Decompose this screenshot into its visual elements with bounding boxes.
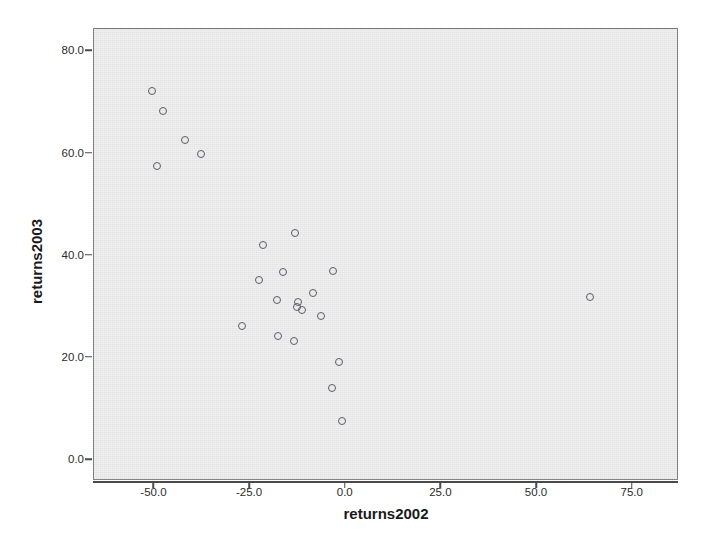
scatter-point xyxy=(328,384,336,392)
scatter-point xyxy=(148,87,156,95)
scatter-point xyxy=(181,136,189,144)
y-tick-label-column: 0.020.040.060.080.0 xyxy=(40,0,84,547)
scatter-point xyxy=(329,267,337,275)
x-tick-mark xyxy=(344,481,346,488)
scatter-point xyxy=(153,162,161,170)
y-tick-label: 40.0 xyxy=(62,249,84,261)
scatter-point xyxy=(197,150,205,158)
x-tick-mark xyxy=(153,481,155,488)
scatter-point xyxy=(159,107,167,115)
scatter-point xyxy=(317,312,325,320)
scatter-point xyxy=(274,332,282,340)
plot-area xyxy=(93,28,678,480)
x-tick-mark xyxy=(631,481,633,488)
scatter-point xyxy=(273,296,281,304)
y-tick-mark xyxy=(85,50,92,52)
y-tick-label: 60.0 xyxy=(62,147,84,159)
y-tick-mark xyxy=(85,152,92,154)
y-tick-mark xyxy=(85,356,92,358)
scatter-point xyxy=(238,322,246,330)
scatter-point xyxy=(298,306,306,314)
x-axis-line xyxy=(93,481,678,483)
x-axis-title: returns2002 xyxy=(93,505,679,522)
scatter-point xyxy=(309,289,317,297)
y-tick-mark xyxy=(85,254,92,256)
scatter-point xyxy=(586,293,594,301)
scatter-point xyxy=(338,417,346,425)
y-tick-mark xyxy=(85,458,92,460)
y-tick-label: 20.0 xyxy=(62,351,84,363)
y-tick-label: 0.0 xyxy=(68,453,84,465)
scatter-point xyxy=(259,241,267,249)
x-tick-mark xyxy=(535,481,537,488)
x-tick-mark xyxy=(440,481,442,488)
scatter-plot-figure: returns2003 0.020.040.060.080.0 -50.0-25… xyxy=(0,0,716,547)
y-tick-label: 80.0 xyxy=(62,44,84,56)
scatter-point xyxy=(279,268,287,276)
scatter-point xyxy=(291,229,299,237)
scatter-point xyxy=(290,337,298,345)
x-tick-mark xyxy=(248,481,250,488)
scatter-point xyxy=(255,276,263,284)
scatter-point xyxy=(335,358,343,366)
